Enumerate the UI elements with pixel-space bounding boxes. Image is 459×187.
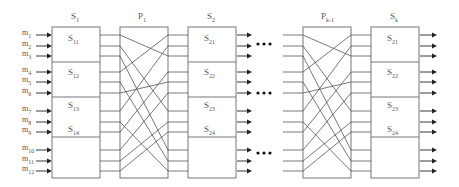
diagram-canvas: m1m2m3m4m5m6m7m8m9m10m11m12S1S11S12S13S1… [0, 0, 459, 187]
input-label-m1: m1 [22, 29, 31, 39]
arrow-head-icon [247, 148, 252, 153]
arrow-head-icon [432, 159, 437, 164]
arrow-head-icon [247, 120, 252, 125]
substage-label-22-sub: 22 [392, 73, 398, 79]
ellipsis-dot [262, 151, 265, 154]
arrow-head-icon [47, 33, 52, 38]
substage-label-13-sub: 13 [73, 106, 79, 112]
network-diagram [0, 0, 459, 187]
permutation-wire [120, 132, 168, 171]
input-label-m9: m9 [22, 126, 31, 136]
permutation-wire [120, 56, 168, 150]
stage-title-s2: S2 [207, 12, 215, 23]
input-label-m10: m10 [22, 144, 34, 154]
substage-label-12-sub: 12 [73, 73, 79, 79]
input-label-m10-sub: 10 [28, 148, 34, 154]
input-label-m1-sub: 1 [28, 33, 31, 39]
permutation-wire [303, 56, 351, 150]
substage-label-22: S22 [204, 68, 215, 79]
ellipsis-dot [256, 42, 259, 45]
input-label-m7: m7 [22, 105, 31, 115]
ellipsis-dot [268, 91, 271, 94]
substage-label-11: S11 [68, 34, 79, 45]
substage-label-23: S23 [204, 101, 215, 112]
permutation-wire [303, 122, 351, 171]
arrow-head-icon [432, 148, 437, 153]
substage-label-22: S22 [387, 68, 398, 79]
ellipsis-dot [268, 151, 271, 154]
permutation-wire [120, 82, 168, 93]
input-label-m3-sub: 3 [28, 54, 31, 60]
substage-label-21-sub: 21 [209, 39, 215, 45]
input-label-m4-sub: 4 [28, 70, 31, 76]
arrow-head-icon [432, 44, 437, 49]
input-label-m2-sub: 2 [28, 44, 31, 50]
stage-title-s1-sub: 1 [76, 17, 79, 23]
permutation-title-pk1: Pk-1 [321, 12, 334, 23]
arrow-head-icon [432, 91, 437, 96]
input-label-m6-sub: 6 [28, 91, 31, 97]
arrow-head-icon [47, 130, 52, 135]
arrow-head-icon [47, 120, 52, 125]
substage-label-21-sub: 21 [392, 39, 398, 45]
arrow-head-icon [432, 54, 437, 59]
arrow-head-icon [432, 130, 437, 135]
arrow-head-icon [47, 109, 52, 114]
ellipsis-dot [268, 42, 271, 45]
arrow-head-icon [432, 109, 437, 114]
arrow-head-icon [247, 44, 252, 49]
ellipsis-dot [262, 91, 265, 94]
arrow-head-icon [47, 44, 52, 49]
substage-label-24-sub: 24 [209, 130, 215, 136]
arrow-head-icon [432, 169, 437, 174]
arrow-head-icon [247, 130, 252, 135]
arrow-head-icon [247, 109, 252, 114]
arrow-head-icon [247, 159, 252, 164]
input-label-m7-sub: 7 [28, 109, 31, 115]
arrow-head-icon [47, 54, 52, 59]
substage-label-23-sub: 23 [392, 106, 398, 112]
arrow-head-icon [47, 70, 52, 75]
arrow-head-icon [432, 70, 437, 75]
arrow-head-icon [47, 148, 52, 153]
permutation-title-p1: P1 [138, 12, 146, 23]
arrow-head-icon [47, 169, 52, 174]
permutation-title-pk1-sub: k-1 [326, 17, 334, 23]
permutation-wire [120, 35, 168, 56]
arrow-head-icon [47, 80, 52, 85]
permutation-wire [120, 35, 168, 72]
substage-label-21: S21 [204, 34, 215, 45]
substage-label-23-sub: 23 [209, 106, 215, 112]
input-label-m12: m12 [22, 165, 34, 175]
input-label-m11-sub: 11 [28, 159, 34, 165]
permutation-wire [303, 35, 351, 72]
permutation-wire [120, 122, 168, 171]
stage-title-sk-sub: k [395, 17, 398, 23]
ellipsis-dot [256, 151, 259, 154]
arrow-head-icon [47, 91, 52, 96]
arrow-head-icon [432, 120, 437, 125]
ellipsis-dot [256, 91, 259, 94]
substage-label-21: S21 [387, 34, 398, 45]
arrow-head-icon [247, 169, 252, 174]
input-label-m9-sub: 9 [28, 130, 31, 136]
permutation-wire [303, 35, 351, 56]
permutation-wire [303, 82, 351, 93]
substage-label-24: S24 [204, 125, 215, 136]
stage-title-s1: S1 [71, 12, 79, 23]
arrow-head-icon [47, 159, 52, 164]
substage-label-11-sub: 11 [73, 39, 79, 45]
substage-label-12: S12 [68, 68, 79, 79]
substage-label-24: S24 [387, 125, 398, 136]
input-label-m8-sub: 8 [28, 120, 31, 126]
substage-label-23: S23 [387, 101, 398, 112]
arrow-head-icon [247, 80, 252, 85]
arrow-head-icon [247, 91, 252, 96]
arrow-head-icon [247, 54, 252, 59]
input-label-m12-sub: 12 [28, 169, 34, 175]
arrow-head-icon [432, 80, 437, 85]
arrow-head-icon [247, 33, 252, 38]
substage-label-22-sub: 22 [209, 73, 215, 79]
stage-title-s2-sub: 2 [212, 17, 215, 23]
substage-label-14-sub: 14 [73, 130, 79, 136]
